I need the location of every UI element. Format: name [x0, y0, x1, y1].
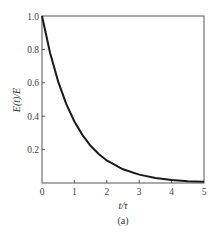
- decay-chart: 0.20.40.60.81.0 012345 E(t)/E t/τ (a): [0, 0, 213, 233]
- x-tick-label: 5: [202, 187, 207, 197]
- y-tick-label: 0.6: [27, 78, 39, 88]
- y-tick-label: 0.2: [27, 145, 39, 155]
- plot-frame: [42, 16, 204, 183]
- x-tick-label: 1: [72, 187, 77, 197]
- decay-curve: [42, 16, 204, 182]
- chart-svg: 0.20.40.60.81.0 012345 E(t)/E t/τ (a): [0, 0, 213, 233]
- y-tick-label: 1.0: [27, 12, 39, 22]
- x-tick-label: 4: [169, 187, 174, 197]
- figure-caption: (a): [117, 215, 128, 227]
- x-tick-label: 0: [40, 187, 45, 197]
- x-tick-label: 2: [104, 187, 109, 197]
- y-tick-label: 0.8: [27, 45, 39, 55]
- y-axis-label: E(t)/E: [11, 88, 23, 113]
- y-tick-label: 0.4: [27, 112, 39, 122]
- x-tick-label: 3: [137, 187, 142, 197]
- x-axis-label: t/τ: [118, 200, 128, 211]
